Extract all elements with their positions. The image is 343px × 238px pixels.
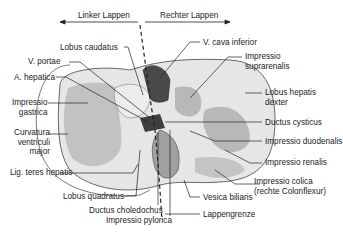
header-left-lobe: Linker Lappen	[78, 11, 130, 21]
header-right-lobe: Rechter Lappen	[160, 11, 218, 21]
label-a-hepatica: A. hepatica	[14, 73, 55, 83]
label-lobus-quadratus: Lobus quadratus	[63, 192, 124, 202]
lobe-arrows	[60, 20, 230, 24]
label-impressio-duodenalis: Impressio duodenalis	[265, 137, 342, 147]
label-lobus-caudatus: Lobus caudatus	[60, 43, 118, 53]
label-ductus-choledochus: Ductus choledochus	[89, 206, 163, 216]
label-lappengrenze: Lappengrenze	[203, 210, 255, 220]
label-v-cava-inferior: V. cava inferior	[203, 38, 257, 48]
label-lobus-hepatis-dexter: Lobus hepatis dexter	[265, 88, 316, 107]
label-impressio-suprarenalis: Impressio suprarenalis	[245, 52, 290, 71]
label-impressio-colica: Impressio colica (rechte Colonflexur)	[254, 177, 326, 196]
label-impressio-pylorica: Impressio pylorica	[106, 216, 172, 226]
label-curvatura: Curvatura ventriculi major	[14, 128, 50, 157]
label-ductus-cysticus: Ductus cysticus	[265, 118, 322, 128]
label-v-portae: V. portae	[28, 57, 60, 67]
label-vesica-biliaris: Vesica biliaris	[203, 193, 253, 203]
impressio-gastrica-area	[64, 82, 122, 166]
label-impressio-gastrica: Impressio gastrica	[12, 98, 48, 117]
label-impressio-renalis: Impressio renalis	[265, 158, 327, 168]
label-lig-teres: Lig. teres hepatis	[10, 168, 72, 178]
